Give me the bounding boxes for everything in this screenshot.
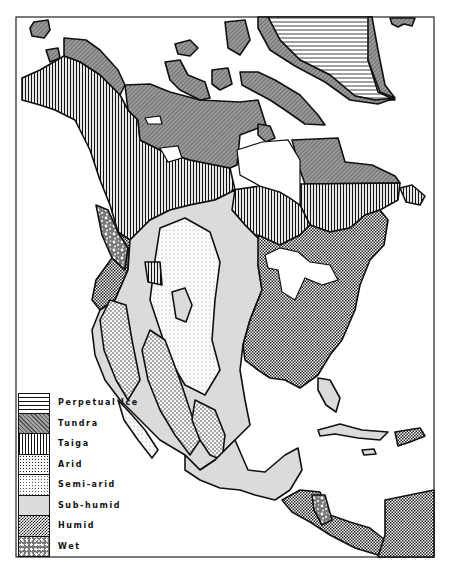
legend-label: Humid (58, 521, 95, 530)
legend-label: Arid (58, 460, 83, 469)
legend-label: Wet (58, 542, 81, 551)
semi-arid-swatch (18, 475, 50, 496)
legend-item-arid: Arid (18, 455, 138, 476)
legend-item-wet: Wet (18, 537, 138, 558)
region-jamaica (362, 449, 376, 455)
humid-swatch (18, 516, 50, 537)
arid-swatch (18, 455, 50, 476)
legend-item-tundra: Tundra (18, 414, 138, 435)
wet-swatch (18, 537, 50, 558)
water-great-slave-lake (145, 116, 162, 124)
region-alaska-island-tundra (30, 20, 50, 38)
legend-item-semi-arid: Semi-arid (18, 475, 138, 496)
legend-item-perpetual-ice: Perpetual Ice (18, 393, 138, 414)
sub-humid-swatch (18, 496, 50, 517)
legend-label: Tundra (58, 419, 99, 428)
legend-label: Sub-humid (58, 501, 121, 510)
region-rockies-taiga (145, 262, 162, 285)
taiga-swatch (18, 434, 50, 455)
region-south-america-humid (378, 490, 434, 557)
legend-label: Taiga (58, 439, 90, 448)
perpetual-ice-swatch (18, 393, 50, 414)
map-legend: Perpetual Ice Tundra Taiga Arid Semi-ari… (18, 393, 138, 557)
legend-item-sub-humid: Sub-humid (18, 496, 138, 517)
legend-item-humid: Humid (18, 516, 138, 537)
legend-item-taiga: Taiga (18, 434, 138, 455)
legend-label: Perpetual Ice (58, 398, 139, 407)
legend-label: Semi-arid (58, 480, 116, 489)
tundra-swatch (18, 414, 50, 435)
